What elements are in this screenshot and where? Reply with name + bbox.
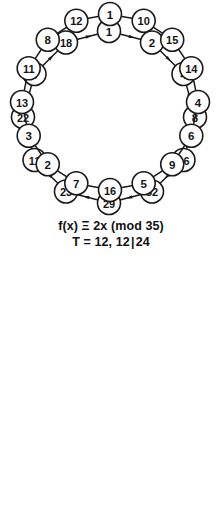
cycle-node: 13 [11, 91, 34, 114]
cycle-diagram-mod-17: 11015144695167231311812 f(x) Ξ 10x (mod … [0, 255, 222, 514]
node-circle [161, 153, 184, 176]
node-circle [132, 9, 155, 32]
cycle-node: 15 [161, 28, 184, 51]
node-circle [187, 91, 210, 114]
cycle-node: 14 [180, 57, 203, 80]
cycle-node: 8 [36, 28, 59, 51]
cycle-edge [179, 146, 184, 154]
cycle-edge [154, 28, 162, 33]
cycle-node: 5 [132, 172, 155, 195]
cycle-node: 11 [17, 57, 40, 80]
node-circle [99, 179, 122, 202]
cycle-node: 4 [187, 91, 210, 114]
node-circle [132, 172, 155, 195]
cycle-edge [88, 186, 98, 188]
cycle-edge [58, 171, 66, 176]
node-circle [180, 57, 203, 80]
cycle-node: 2 [36, 153, 59, 176]
node-circle [36, 153, 59, 176]
cycle-node: 9 [161, 153, 184, 176]
node-circle [11, 91, 34, 114]
cycle-edge [24, 80, 26, 90]
node-circle [17, 124, 40, 147]
node-circle [17, 57, 40, 80]
cycle-node: 3 [17, 124, 40, 147]
cycle-edge [122, 16, 132, 18]
cycle-edge [36, 146, 41, 154]
cycle-edge [122, 186, 132, 188]
cycle-edge [179, 50, 184, 58]
cycle-node: 12 [65, 9, 88, 32]
node-circle [65, 9, 88, 32]
cycle-edge [58, 28, 66, 33]
cycle-edge [194, 80, 196, 90]
node-circle [99, 3, 122, 26]
caption-mod-35-period: T = 12, 12 | 24 [0, 234, 222, 250]
cycle-edge [24, 114, 26, 124]
cycle-edge [154, 171, 162, 176]
cycle-edge [88, 16, 98, 18]
node-circle [180, 124, 203, 147]
node-circle [65, 172, 88, 195]
cycle-node: 7 [65, 172, 88, 195]
cycle-edge [194, 114, 196, 124]
cycle-node: 16 [99, 179, 122, 202]
caption-mod-35-function: f(x) Ξ 2x (mod 35) [0, 218, 222, 234]
cycle-node: 1 [99, 3, 122, 26]
cycle-graph-mod-17: 11015144695167231311812 [0, 0, 222, 214]
node-circle [161, 28, 184, 51]
cycle-edge [36, 50, 41, 58]
cycle-node: 10 [132, 9, 155, 32]
node-circle [36, 28, 59, 51]
cycle-node: 6 [180, 124, 203, 147]
